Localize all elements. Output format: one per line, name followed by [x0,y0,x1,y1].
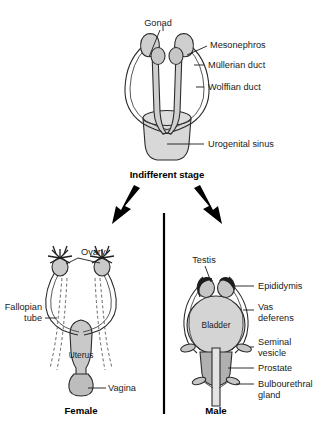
label-seminal-vesicle-line2: vesicle [258,348,286,358]
gonad-right-shape [169,48,183,65]
arrow-to-female [112,185,140,224]
bulbourethral-left-shape [191,376,206,386]
female-figure: Ovary Fallopian tube Uterus Vagina Femal… [5,246,137,416]
label-seminal-vesicle-line1: Seminal [258,337,291,347]
label-mullerian-duct: Müllerian duct [208,60,266,70]
arrow-to-male [194,185,222,224]
vagina-shape [69,374,93,396]
label-epididymis: Epididymis [258,281,303,291]
label-vas-deferens-line1: Vas [258,302,274,312]
label-uterus: Uterus [69,350,94,360]
caption-indifferent-stage: Indifferent stage [130,169,205,180]
caption-female: Female [64,405,97,416]
label-urogenital-sinus: Urogenital sinus [208,139,274,149]
seminal-vesicle-right-shape [236,343,252,354]
label-vagina: Vagina [108,383,137,393]
caption-male: Male [205,405,226,416]
label-vas-deferens-line2: deferens [258,313,294,323]
label-fallopian-tube-line1: Fallopian [5,302,42,312]
branch-arrows [112,185,222,224]
label-bulbourethral-line2: gland [258,390,280,400]
degenerating-wolffian-right [95,278,112,370]
label-fallopian-tube-line2: tube [24,313,42,323]
sexual-differentiation-diagram: Gonad Mesonephros Müllerian duct Wolffia… [0,0,334,428]
indifferent-stage-figure: Gonad Mesonephros Müllerian duct Wolffia… [125,18,274,180]
label-mesonephros: Mesonephros [210,40,266,50]
label-gonad: Gonad [144,18,172,28]
seminal-vesicle-left-shape [180,343,196,354]
male-figure: Testis Epididymis Vas deferens Seminal v… [180,255,313,416]
label-prostate: Prostate [258,363,292,373]
degenerating-wolffian-left [50,278,67,370]
bulbourethral-right-shape [225,376,240,386]
urethra-shape [212,348,220,406]
ovary-leader [66,258,78,264]
label-ovary: Ovary [81,247,106,257]
label-bulbourethral-line1: Bulbourethral [258,379,313,389]
label-wolffian-duct: Wolffian duct [208,82,261,92]
label-bladder: Bladder [202,320,231,330]
label-testis: Testis [192,255,216,265]
gonad-left-shape [151,48,165,65]
